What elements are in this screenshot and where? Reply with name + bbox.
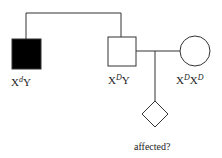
genotype-label-brother: XdY (11, 76, 31, 88)
child-question-label: affected? (134, 141, 170, 152)
sibship-line (26, 13, 121, 39)
genotype-label-mother: XDXD (176, 74, 203, 86)
affected-male-symbol (12, 39, 41, 69)
unaffected-female-symbol (180, 36, 210, 66)
unaffected-male-symbol (108, 37, 136, 66)
genotype-label-father: XDY (108, 74, 130, 86)
unknown-sex-child-symbol (142, 101, 168, 127)
